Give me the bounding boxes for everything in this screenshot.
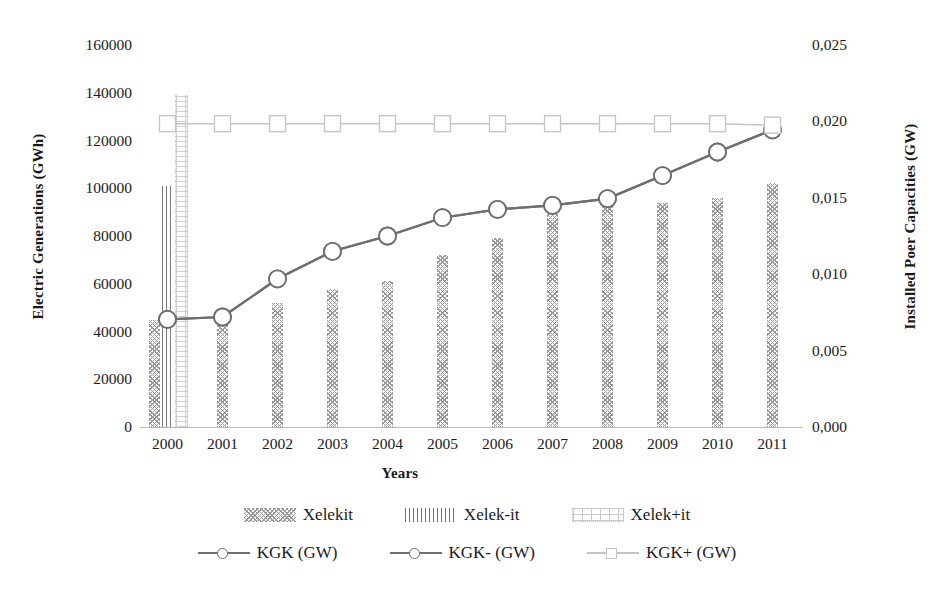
marker-KGKGW-2011	[765, 117, 781, 133]
marker-KGKGW-2003	[325, 116, 341, 132]
y-tick-label-right: 0,010	[812, 266, 882, 282]
x-tick-label: 2003	[305, 436, 360, 452]
marker-KGKGW-2010	[709, 144, 726, 161]
legend-label: KGK+ (GW)	[646, 543, 736, 563]
legend-label: Xelekit	[303, 505, 353, 525]
y-tick-label-left: 80000	[40, 228, 132, 244]
y-tick-label-left: 100000	[40, 180, 132, 196]
line-KGKGW	[168, 130, 773, 319]
marker-KGKGW-2002	[270, 116, 286, 132]
y-tick-label-left: 60000	[40, 276, 132, 292]
marker-KGKGW-2009	[654, 167, 671, 184]
x-tick-label: 2004	[360, 436, 415, 452]
y-tick-label-right: 0,000	[812, 419, 882, 435]
legend-swatch-dotted	[572, 508, 624, 522]
line-KGKGW	[168, 124, 773, 126]
x-axis-line	[140, 427, 802, 428]
marker-KGKGW-2007	[544, 197, 561, 214]
legend-square-marker	[606, 548, 617, 559]
legend-label: Xelek+it	[631, 505, 691, 525]
marker-KGKGW-2002	[269, 270, 286, 287]
legend-item-KGKGW[interactable]: KGK (GW)	[198, 543, 338, 563]
x-tick-label: 2007	[525, 436, 580, 452]
y-tick-label-left: 40000	[40, 324, 132, 340]
x-tick-label: 2001	[195, 436, 250, 452]
y-tick-label-left: 160000	[40, 37, 132, 53]
legend-label: KGK (GW)	[257, 543, 338, 563]
marker-KGKGW-2010	[710, 116, 726, 132]
legend-swatch-vline	[405, 508, 457, 522]
marker-KGKGW-2006	[489, 201, 506, 218]
legend-circle-marker	[217, 548, 228, 559]
legend-row-bars: XelekitXelek-itXelek+it	[0, 496, 934, 534]
marker-KGKGW-2008	[599, 190, 616, 207]
legend-swatch-line	[198, 545, 250, 561]
legend-circle-marker	[409, 548, 420, 559]
x-tick-label: 2005	[415, 436, 470, 452]
marker-KGKGW-2005	[434, 209, 451, 226]
y-tick-label-right: 0,015	[812, 190, 882, 206]
y-tick-label-right: 0,005	[812, 343, 882, 359]
marker-KGKGW-2009	[655, 116, 671, 132]
y-tick-label-left: 140000	[40, 85, 132, 101]
y-tick-label-left: 20000	[40, 371, 132, 387]
marker-KGKGW-2005	[435, 116, 451, 132]
marker-KGKGW-2001	[215, 116, 231, 132]
x-tick-label: 2010	[690, 436, 745, 452]
marker-KGKGW-2001	[214, 309, 231, 326]
marker-KGKGW-2006	[490, 116, 506, 132]
marker-KGKGW-2008	[600, 116, 616, 132]
y-tick-label-right: 0,020	[812, 113, 882, 129]
legend-item-KGK-GW[interactable]: KGK- (GW)	[390, 543, 535, 563]
legend-label: KGK- (GW)	[449, 543, 535, 563]
x-tick-label: 2000	[140, 436, 195, 452]
marker-KGKGW-2004	[379, 228, 396, 245]
plot-area	[140, 45, 800, 427]
marker-KGKGW-2000	[159, 311, 176, 328]
marker-KGKGW-2003	[324, 243, 341, 260]
legend-row-lines: KGK (GW)KGK- (GW)KGK+ (GW)	[0, 534, 934, 572]
y-tick-label-left: 0	[40, 419, 132, 435]
legend-swatch-hatch	[244, 508, 296, 522]
marker-KGKGW-2004	[380, 116, 396, 132]
x-tick-label: 2011	[745, 436, 800, 452]
legend-swatch-line	[390, 545, 442, 561]
legend-item-Xelekit[interactable]: Xelekit	[244, 505, 353, 525]
y-axis-right-title: Installed Poer Capacities (GW)	[902, 77, 919, 377]
legend-label: Xelek-it	[464, 505, 520, 525]
chart-legend: XelekitXelek-itXelek+it KGK (GW)KGK- (GW…	[0, 496, 934, 572]
legend-item-Xelek+it[interactable]: Xelek+it	[572, 505, 691, 525]
x-tick-label: 2002	[250, 436, 305, 452]
x-tick-label: 2009	[635, 436, 690, 452]
marker-KGKGW-2000	[160, 116, 176, 132]
line-layer	[140, 45, 800, 427]
y-tick-label-right: 0,025	[812, 37, 882, 53]
marker-KGKGW-2007	[545, 116, 561, 132]
legend-swatch-line	[587, 545, 639, 561]
chart-figure: Electric Generations (GWh) Installed Poe…	[0, 0, 934, 595]
y-tick-label-left: 120000	[40, 133, 132, 149]
x-tick-label: 2008	[580, 436, 635, 452]
legend-item-Xelek-it[interactable]: Xelek-it	[405, 505, 520, 525]
x-axis-title: Years	[0, 465, 800, 482]
legend-item-KGK+GW[interactable]: KGK+ (GW)	[587, 543, 736, 563]
x-tick-label: 2006	[470, 436, 525, 452]
